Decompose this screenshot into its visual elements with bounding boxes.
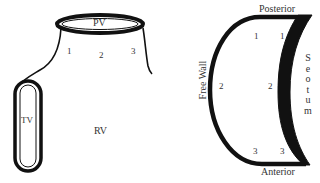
rv-right-wall [143, 28, 152, 74]
segment-3-label: 3 [131, 46, 136, 56]
pv-label: PV [93, 18, 106, 28]
segment-bottom-right: 3 [280, 146, 285, 156]
rv-label: RV [94, 126, 107, 136]
segment-top-left: 1 [254, 31, 259, 41]
septum-letter: m [303, 106, 313, 117]
segment-2-label: 2 [99, 50, 104, 60]
segment-bottom-left: 3 [253, 146, 258, 156]
posterior-label: Posterior [259, 4, 295, 14]
tv-label: TV [21, 115, 33, 125]
segment-top-right: 1 [280, 31, 285, 41]
free-wall-label: Free Wall [198, 57, 208, 103]
anterior-label: Anterior [261, 167, 295, 177]
tricuspid-valve-ring [15, 81, 41, 171]
septum-letter: o [303, 74, 313, 85]
septum-letter: S [303, 53, 313, 64]
rv-left-wall [16, 28, 61, 88]
segment-1-label: 1 [67, 46, 72, 56]
segment-mid-left: 2 [219, 81, 224, 91]
diagram-canvas [0, 0, 320, 183]
segment-mid-center: 2 [268, 81, 273, 91]
septum-letter: u [303, 95, 313, 106]
septum-label: S e o t u m [303, 53, 313, 116]
